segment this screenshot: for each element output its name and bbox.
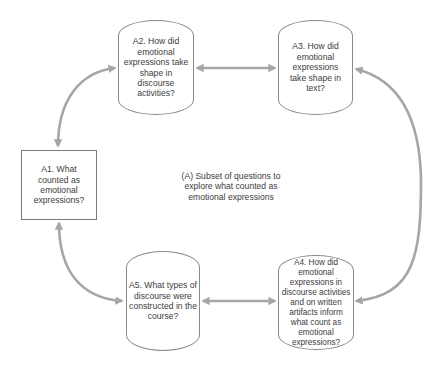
node-a2: A2. How did emotional expressions take s… — [118, 20, 194, 115]
node-a1-label: A1. What counted as emotional expression… — [30, 164, 88, 206]
node-a3-label: A3. How did emotional expressions take s… — [285, 41, 346, 93]
node-a1: A1. What counted as emotional expression… — [21, 150, 97, 220]
edge-a3-a4 — [356, 69, 421, 301]
node-a5-label: A5. What types of discourse were constru… — [129, 280, 197, 322]
node-a4-label: A4. How did emotional expressions in dis… — [280, 258, 352, 348]
diagram-caption: (A) Subset of questions to explore what … — [170, 171, 292, 202]
node-a5: A5. What types of discourse were constru… — [126, 251, 200, 351]
node-a4: A4. How did emotional expressions in dis… — [278, 255, 354, 350]
edge-a1-a2 — [58, 68, 115, 146]
node-a2-label: A2. How did emotional expressions take s… — [121, 36, 191, 98]
edge-a1-a5 — [59, 223, 122, 301]
node-a3: A3. How did emotional expressions take s… — [278, 20, 353, 115]
